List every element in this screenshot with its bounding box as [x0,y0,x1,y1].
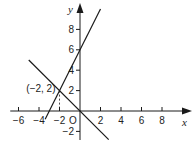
intersection-label: (−2, 2) [26,83,55,94]
x-tick-label: −6 [13,115,25,126]
y-tick-label: 2 [68,85,74,96]
x-tick-label: −2 [54,115,66,126]
coordinate-plane: xyO −6−4−22468−22468 (−2, 2) [0,0,195,148]
x-tick-label: −4 [33,115,45,126]
x-tick-label: 6 [139,115,145,126]
x-tick-label: 8 [159,115,165,126]
x-tick-label: 4 [118,115,124,126]
y-axis-arrow-icon [77,3,84,13]
x-axis-arrow-icon [182,108,192,115]
annotations: (−2, 2) [26,83,59,111]
y-tick-label: 8 [68,24,74,35]
y-tick-label: 6 [68,44,74,55]
y-axis-label: y [67,3,73,15]
x-tick-label: 2 [98,115,104,126]
x-axis-label: x [181,116,187,128]
y-tick-label: −2 [63,126,75,137]
origin-label: O [69,115,77,126]
